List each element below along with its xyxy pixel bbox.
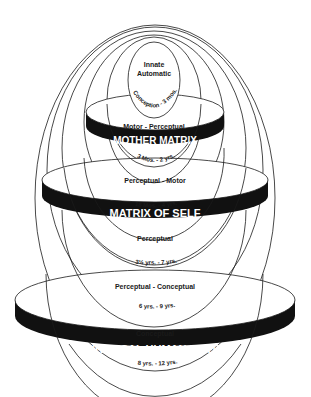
band-label-matrix-of-self: MATRIX OF SELF bbox=[110, 207, 201, 219]
stage-label-perceptual-motor: Perceptual - Motor bbox=[124, 177, 186, 185]
stage-label-automatic: Automatic bbox=[137, 70, 171, 77]
stage-label-perceptual-conceptual: Perceptual - Conceptual bbox=[115, 283, 195, 291]
stage-label-perceptual: Perceptual bbox=[137, 235, 173, 243]
stage-label-motor-perceptual: Motor - Perceptual bbox=[123, 123, 185, 131]
band-label-mother-matrix: MOTHER MATRIX bbox=[113, 135, 197, 146]
band-label-universal-human-matrix: UNIVERSAL HUMAN MATRIX bbox=[79, 343, 231, 355]
stage-label-conceptual: Conceptual bbox=[136, 330, 174, 338]
matrix-diagram: Innate Automatic Motor - Perceptual Perc… bbox=[0, 0, 311, 397]
stage-label-innate: Innate bbox=[144, 61, 165, 68]
